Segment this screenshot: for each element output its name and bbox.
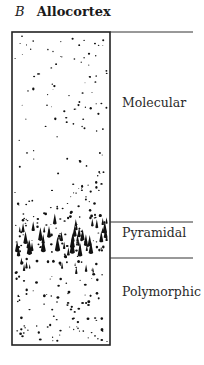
- layer-label-molecular: Molecular: [122, 95, 186, 110]
- cortex-column-box: [12, 32, 110, 345]
- neuron-cells: [14, 36, 108, 342]
- layer-label-pyramidal: Pyramidal: [122, 225, 186, 240]
- layer-label-polymorphic: Polymorphic: [122, 284, 201, 299]
- allocortex-diagram: [0, 0, 204, 365]
